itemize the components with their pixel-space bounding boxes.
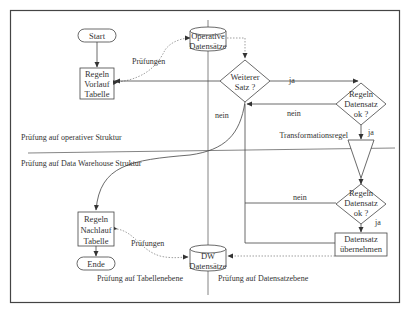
operative-struktur-label: Prüfung auf operativer Struktur bbox=[21, 133, 122, 142]
flowchart-diagram: Start Regeln Vorlauf Tabelle Prüfungen O… bbox=[0, 0, 409, 311]
vorlauf-line-3: Tabelle bbox=[85, 89, 110, 99]
operative-db-line-1: Operative bbox=[191, 31, 225, 41]
nein-label-2: nein bbox=[293, 193, 307, 202]
regeln-ok-1-decision: Regeln Datensatz ok ? bbox=[336, 83, 386, 125]
tabellenebene-label: Prüfung auf Tabellenebene bbox=[97, 274, 183, 283]
uebernehmen-node: Datensatz übernehmen bbox=[335, 233, 387, 256]
regeln-ok-2-line-1: Regeln bbox=[349, 188, 374, 198]
dw-struktur-label: Prüfung auf Data Warehouse Struktur bbox=[21, 159, 142, 168]
nachlauf-node: Regeln Nachlauf Tabelle bbox=[78, 212, 114, 246]
uebernehmen-line-1: Datensatz bbox=[344, 234, 378, 244]
transformation-label: Transformationsregel bbox=[279, 131, 348, 140]
nachlauf-line-3: Tabelle bbox=[84, 236, 109, 246]
vorlauf-line-1: Regeln bbox=[85, 69, 110, 79]
weiterer-line-2: Satz ? bbox=[235, 82, 256, 92]
uebernehmen-line-2: übernehmen bbox=[340, 244, 383, 254]
weiterer-satz-decision: Weiterer Satz ? bbox=[220, 60, 270, 102]
dw-db-line-1: DW bbox=[201, 251, 215, 261]
ja-label-2: ja bbox=[367, 128, 374, 137]
nein-left-label: nein bbox=[215, 111, 229, 120]
weiterer-line-1: Weiterer bbox=[230, 72, 259, 82]
ja-label-3: ja bbox=[374, 218, 381, 227]
regeln-ok-1-line-1: Regeln bbox=[349, 89, 374, 99]
regeln-ok-1-line-2: Datensatz bbox=[344, 99, 378, 109]
ja-label-1: ja bbox=[288, 76, 295, 85]
regeln-ok-2-line-2: Datensatz bbox=[344, 198, 378, 208]
vorlauf-node: Regeln Vorlauf Tabelle bbox=[80, 68, 114, 99]
regeln-ok-1-line-3: ok ? bbox=[354, 109, 369, 119]
start-node: Start bbox=[78, 29, 116, 42]
structure-divider-line bbox=[28, 148, 395, 153]
operative-db-line-2: Datensätze bbox=[189, 41, 227, 51]
pruefungen-top-label: Prüfungen bbox=[132, 57, 165, 66]
operative-db-node: Operative Datensätze bbox=[189, 27, 227, 51]
operative-to-weiterer-edge bbox=[227, 38, 245, 58]
nein-label-1: nein bbox=[287, 109, 301, 118]
datensatzebene-label: Prüfung auf Datensatzebene bbox=[218, 274, 309, 283]
ende-label: Ende bbox=[87, 259, 105, 269]
vorlauf-line-2: Vorlauf bbox=[84, 79, 110, 89]
regeln-ok-2-line-3: ok ? bbox=[354, 208, 369, 218]
nachlauf-line-1: Regeln bbox=[84, 214, 109, 224]
nachlauf-line-2: Nachlauf bbox=[80, 225, 111, 235]
start-label: Start bbox=[89, 31, 106, 41]
dw-db-line-2: Datensätze bbox=[189, 261, 227, 271]
dw-db-node: DW Datensätze bbox=[189, 245, 227, 271]
ende-node: Ende bbox=[77, 257, 115, 270]
transformation-node bbox=[348, 140, 374, 178]
pruefungen-bottom-label: Prüfungen bbox=[131, 239, 164, 248]
